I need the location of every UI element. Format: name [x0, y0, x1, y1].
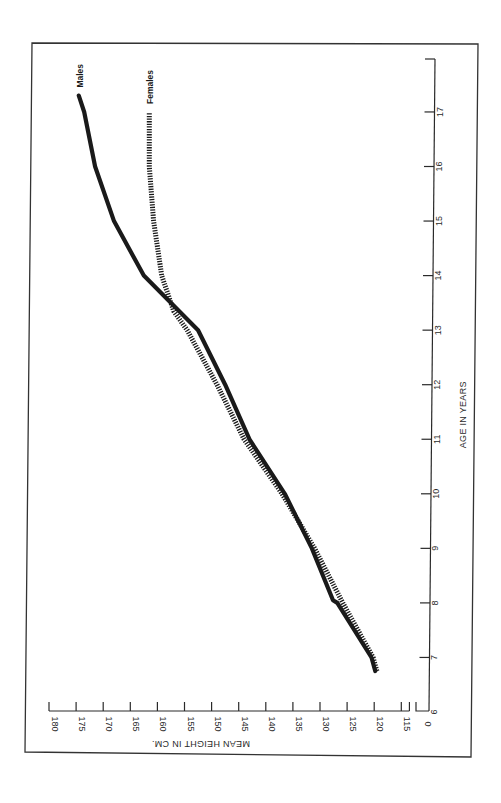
axis-break	[416, 702, 429, 711]
age-tick-label: 9	[430, 546, 440, 551]
age-tick-label: 12	[432, 380, 442, 390]
height-tick-label: 115	[402, 717, 412, 731]
age-tick-label: 13	[433, 325, 443, 335]
height-tick-label: 160	[158, 716, 168, 731]
age-tick-label: 7	[429, 655, 439, 660]
legend-label-males: Males	[75, 64, 85, 88]
age-tick-label: 14	[433, 271, 443, 281]
height-tick-label: 165	[131, 716, 141, 731]
age-tick-label: 17	[435, 107, 445, 117]
height-tick-label: 145	[240, 716, 250, 731]
height-tick-label: 155	[186, 716, 196, 731]
height-tick-label: 135	[294, 716, 304, 731]
height-axis-title: MEAN HEIGHT IN CM.	[152, 739, 250, 749]
height-tick-label: 175	[77, 716, 87, 731]
height-tick-label: 170	[104, 716, 114, 731]
height-tick-label: 130	[321, 716, 331, 731]
series-females-line	[149, 112, 377, 671]
age-tick-label: 16	[434, 161, 444, 171]
series-males-line	[79, 96, 376, 672]
age-tick-label: 11	[432, 435, 442, 444]
axes	[49, 59, 435, 711]
age-tick-label: 6	[429, 709, 439, 714]
height-tick-label: 140	[267, 716, 277, 731]
legend-label-females: Females	[145, 70, 155, 104]
height-tick-label: 0	[423, 721, 433, 726]
age-tick-label: 8	[430, 600, 440, 605]
age-tick-label: 15	[434, 216, 444, 226]
height-tick-label: 180	[50, 716, 60, 731]
height-tick-label: 150	[213, 716, 223, 731]
height-tick-label: 125	[348, 716, 358, 731]
height-tick-label: 120	[375, 716, 385, 731]
labels: 0115120125130135140145150155160165170175…	[50, 64, 468, 749]
data-series	[79, 96, 377, 672]
growth-chart: 0115120125130135140145150155160165170175…	[0, 0, 501, 803]
age-axis-title: AGE IN YEARS	[458, 381, 468, 448]
age-tick-label: 10	[431, 489, 441, 499]
